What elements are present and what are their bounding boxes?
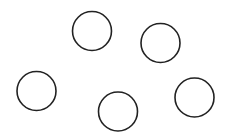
circle-3 <box>17 72 56 111</box>
circle-5 <box>175 78 214 117</box>
circle-1 <box>73 12 112 51</box>
circle-2 <box>141 24 180 63</box>
diagram-canvas <box>0 0 234 136</box>
circle-4 <box>99 92 138 131</box>
